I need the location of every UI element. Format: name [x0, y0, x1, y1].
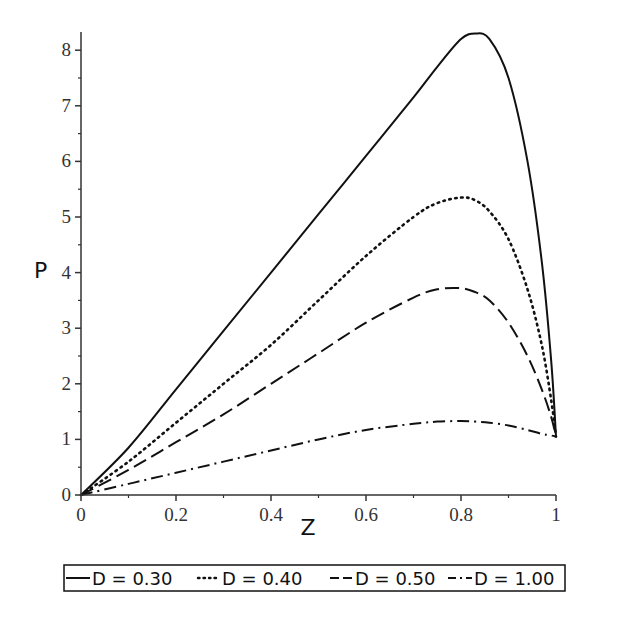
y-tick-label: 4 — [62, 262, 72, 283]
legend: D = 0.30D = 0.40D = 0.50D = 1.00 — [64, 565, 565, 591]
series-line-4 — [81, 421, 556, 495]
y-tick-label: 1 — [62, 428, 72, 449]
x-tick-label: 0.6 — [354, 504, 378, 525]
x-tick-label: 0.2 — [164, 504, 188, 525]
series-line-1 — [81, 33, 556, 495]
y-tick-label: 2 — [62, 373, 72, 394]
y-tick-label: 7 — [62, 95, 72, 116]
x-axis-title: Z — [300, 515, 315, 540]
y-tick-label: 8 — [62, 39, 72, 60]
legend-label: D = 0.40 — [222, 568, 302, 589]
y-tick-label: 0 — [62, 484, 72, 505]
x-tick-label: 0 — [76, 504, 86, 525]
series-line-3 — [81, 288, 556, 495]
y-axis-title: P — [34, 258, 47, 283]
axes: 01234567800.20.40.60.81 — [62, 32, 561, 525]
x-tick-label: 0.8 — [449, 504, 473, 525]
plot-area — [81, 33, 556, 495]
x-tick-label: 0.4 — [259, 504, 283, 525]
legend-label: D = 0.30 — [92, 568, 172, 589]
legend-label: D = 1.00 — [474, 568, 554, 589]
y-tick-label: 5 — [62, 206, 72, 227]
legend-label: D = 0.50 — [355, 568, 435, 589]
series-line-2 — [81, 197, 556, 495]
y-tick-label: 3 — [62, 317, 72, 338]
y-tick-label: 6 — [62, 150, 72, 171]
line-chart: 01234567800.20.40.60.81 P Z D = 0.30D = … — [0, 0, 617, 619]
x-tick-label: 1 — [551, 504, 561, 525]
